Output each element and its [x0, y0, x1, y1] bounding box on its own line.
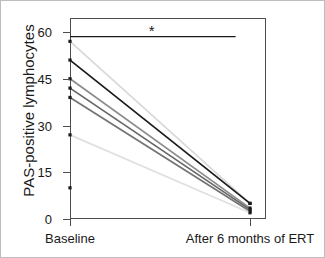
chart-svg-layer [0, 0, 325, 258]
y-tick-mark [63, 219, 70, 220]
data-point-marker [68, 133, 71, 136]
y-tick-mark [63, 32, 70, 33]
series-line [70, 41, 250, 203]
x-tick-label: Baseline [45, 231, 95, 246]
series-line [70, 88, 250, 210]
data-point-marker [248, 202, 251, 205]
series-line [70, 79, 250, 208]
data-point-marker [68, 40, 71, 43]
series-line [70, 60, 250, 203]
x-tick-mark [70, 219, 71, 226]
series-line [70, 97, 250, 211]
series-line [70, 135, 250, 213]
data-point-marker [68, 186, 71, 189]
x-tick-label: After 6 months of ERT [186, 231, 314, 246]
data-point-marker [248, 211, 251, 214]
data-point-marker [68, 58, 71, 61]
y-tick-mark [63, 172, 70, 173]
y-tick-mark [63, 79, 70, 80]
data-point-marker [68, 87, 71, 90]
chart-figure: PAS-positive lymphocytes 015304560 * Bas… [0, 0, 325, 258]
data-point-marker [68, 96, 71, 99]
y-tick-mark [63, 126, 70, 127]
significance-asterisk: * [149, 23, 155, 38]
x-tick-mark [250, 219, 251, 226]
